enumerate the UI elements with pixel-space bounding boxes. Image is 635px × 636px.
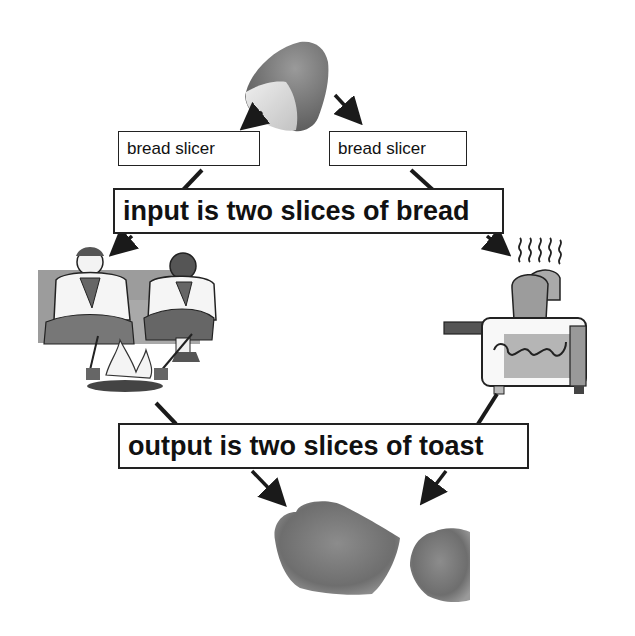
output-label: output is two slices of toast (128, 431, 484, 462)
bread-slicer-right: bread slicer (329, 131, 467, 166)
toast-slice-icon (274, 501, 400, 595)
toast-slice-icon (410, 528, 470, 602)
input-label-box: input is two slices of bread (113, 188, 504, 234)
bread-slicer-left-label: bread slicer (127, 139, 215, 159)
lines-slicers-to-input (183, 170, 433, 190)
input-label: input is two slices of bread (123, 196, 470, 227)
toaster-icon (444, 238, 586, 394)
bread-loaf-icon (245, 42, 328, 132)
output-label-box: output is two slices of toast (118, 423, 529, 469)
arrows-input-to-processes (114, 236, 506, 252)
bread-slicer-right-label: bread slicer (338, 139, 426, 159)
bread-slicer-left: bread slicer (118, 131, 260, 166)
arrows-output-to-toasts (252, 471, 446, 502)
lines-processes-to-output (156, 394, 497, 424)
diagram-graphics (0, 0, 635, 636)
scouts-campfire-icon (38, 247, 216, 392)
